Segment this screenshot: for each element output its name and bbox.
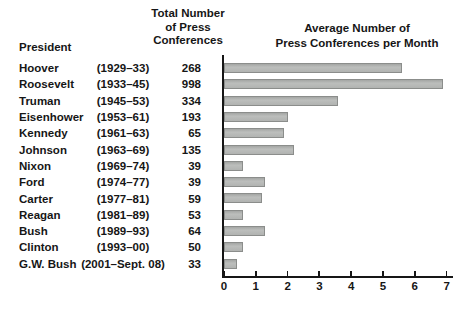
bar-g-w-bush <box>224 259 237 269</box>
bar-roosevelt <box>224 79 443 89</box>
x-tick <box>318 271 320 276</box>
bar-kennedy <box>224 128 284 138</box>
bar-johnson <box>224 145 294 155</box>
bar-chart: 01234567 <box>0 0 474 312</box>
bar-hoover <box>224 63 402 73</box>
bar-eisenhower <box>224 112 288 122</box>
bar-bush <box>224 226 265 236</box>
x-tick-label: 2 <box>278 280 298 292</box>
bar-ford <box>224 177 265 187</box>
x-tick-label: 0 <box>214 280 234 292</box>
x-tick <box>287 271 289 276</box>
x-tick-label: 5 <box>373 280 393 292</box>
figure: President Total Number of Press Conferen… <box>0 0 474 312</box>
x-tick <box>350 271 352 276</box>
bar-truman <box>224 96 338 106</box>
x-tick-label: 3 <box>309 280 329 292</box>
x-tick <box>446 271 448 276</box>
x-tick <box>223 271 225 276</box>
x-tick <box>382 271 384 276</box>
x-tick-label: 1 <box>246 280 266 292</box>
x-tick-label: 4 <box>341 280 361 292</box>
bar-clinton <box>224 242 243 252</box>
x-tick <box>414 271 416 276</box>
bar-reagan <box>224 210 243 220</box>
x-tick-label: 6 <box>405 280 425 292</box>
bar-nixon <box>224 161 243 171</box>
x-tick-label: 7 <box>437 280 457 292</box>
x-axis <box>222 276 453 278</box>
x-tick <box>255 271 257 276</box>
bar-carter <box>224 193 262 203</box>
